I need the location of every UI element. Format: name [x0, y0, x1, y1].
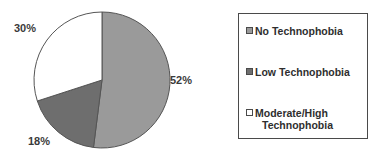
pie-label-low-technophobia: 18% [28, 136, 50, 147]
pie-label-no-technophobia: 52% [170, 75, 192, 86]
legend-label-low-technophobia: Low Technophobia [255, 66, 350, 78]
pie-label-moderate-high: 30% [14, 23, 36, 34]
legend-item-low-technophobia: Low Technophobia [246, 66, 350, 78]
legend-item-no-technophobia: No Technophobia [246, 25, 343, 37]
pie-chart-figure: 30% 52% 18% No Technophobia Low Technoph… [0, 0, 381, 159]
legend-swatch-moderate-high-technophobia [246, 109, 253, 116]
pie-slice-0 [93, 12, 170, 148]
legend-item-moderate-high-technophobia: Moderate/High Technophobia [246, 107, 333, 131]
legend-label-line-1: Moderate/High [255, 107, 328, 119]
pie-chart-plot-area: 30% 52% 18% [0, 0, 230, 159]
chart-legend: No Technophobia Low Technophobia Moderat… [238, 13, 368, 139]
pie-slice-group [34, 12, 170, 148]
legend-swatch-low-technophobia [246, 68, 253, 75]
legend-label-no-technophobia: No Technophobia [255, 25, 343, 37]
legend-label-line-2: Technophobia [255, 119, 333, 131]
legend-swatch-no-technophobia [246, 27, 253, 34]
legend-label-moderate-high-technophobia: Moderate/High Technophobia [255, 107, 333, 131]
